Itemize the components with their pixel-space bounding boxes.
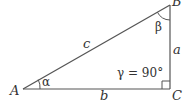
angle-beta-arc xyxy=(157,12,170,20)
side-b-label: b xyxy=(100,88,108,103)
angle-alpha-label: α xyxy=(42,75,50,89)
vertex-c-label: C xyxy=(172,88,182,103)
right-angle-marker xyxy=(162,81,170,89)
right-triangle-diagram: A B C c a b α β γ = 90° xyxy=(0,0,193,106)
side-c-label: c xyxy=(83,36,91,51)
angle-alpha-arc xyxy=(38,80,40,89)
angle-beta-label: β xyxy=(155,20,162,34)
vertex-a-label: A xyxy=(9,83,19,98)
angle-gamma-label: γ = 90° xyxy=(117,66,163,80)
vertex-b-label: B xyxy=(171,0,182,9)
side-a-label: a xyxy=(173,42,181,57)
